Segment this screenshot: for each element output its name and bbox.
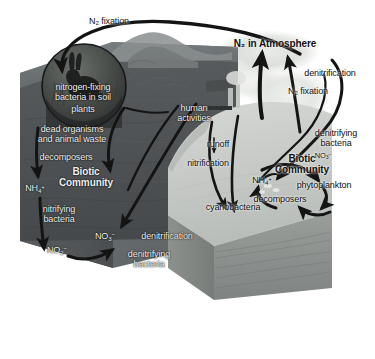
diagram-canvas xyxy=(0,0,375,359)
arrow-n2-to-atmosphere-left xyxy=(260,54,262,118)
nitrogen-cycle-figure: N₂ fixation N₂ in Atmosphere denitrifica… xyxy=(0,0,375,359)
nitrogen-fixing-inset xyxy=(42,44,126,128)
water-block xyxy=(167,100,332,300)
arrow-dead-to-ammonium xyxy=(37,128,39,176)
